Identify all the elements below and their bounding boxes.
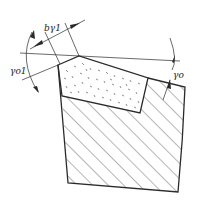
- arrowhead-icon: [33, 40, 43, 47]
- chamfer-rake-angle-arc: [26, 30, 39, 93]
- arrowhead-icon: [70, 23, 80, 29]
- chamfer-rake-angle-label: γo1: [10, 66, 27, 76]
- arrowhead-icon: [33, 86, 39, 93]
- chamfer-width-label: bγ1: [44, 23, 61, 33]
- tool-body: [58, 65, 185, 192]
- reference-line: [20, 53, 180, 61]
- tool-section-diagram: bγ1 γo1 γo: [0, 0, 197, 208]
- rake-angle-label: γo: [173, 70, 184, 80]
